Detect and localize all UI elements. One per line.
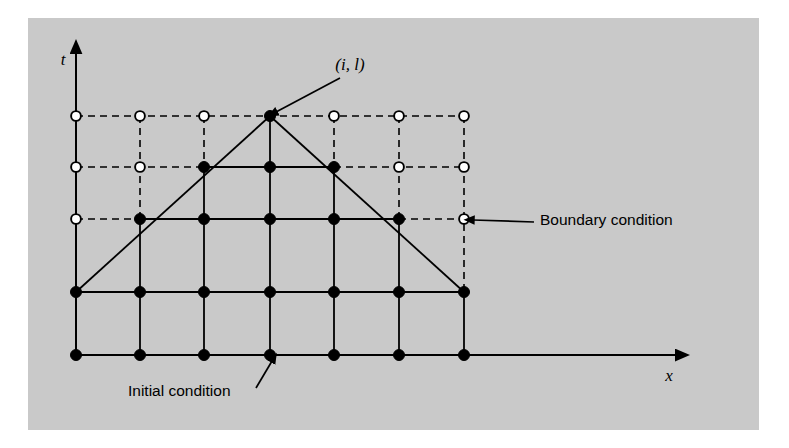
grid-node-filled [135, 287, 146, 298]
figure-root: t x (i, l) Boundary condition Initial co… [0, 0, 789, 448]
grid-node-open [135, 111, 145, 121]
finite-difference-grid-diagram: t x (i, l) Boundary condition Initial co… [0, 0, 789, 448]
grid-node-filled [459, 287, 470, 298]
grid-node-filled [265, 111, 276, 122]
grid-node-filled [329, 287, 340, 298]
grid-node-filled [135, 214, 146, 225]
grid-node-open [459, 162, 469, 172]
boundary-condition-label: Boundary condition [540, 211, 673, 228]
apex-callout-arrow [276, 78, 340, 112]
grid-node-open [459, 111, 469, 121]
grid-node-open [394, 111, 404, 121]
grid-node-filled [265, 162, 276, 173]
grid-node-filled [394, 350, 405, 361]
initial-condition-callout-arrow [256, 361, 272, 388]
grid-node-filled [265, 214, 276, 225]
grid-node-filled [199, 162, 210, 173]
grid-node-filled [329, 350, 340, 361]
right-characteristic [270, 116, 464, 292]
left-characteristic [76, 116, 270, 292]
grid-node-filled [265, 350, 276, 361]
grid-node-filled [265, 287, 276, 298]
grid-node-filled [394, 287, 405, 298]
grid-node-filled [199, 350, 210, 361]
grid-node-open [135, 162, 145, 172]
x-axis-label: x [664, 366, 673, 385]
grid-node-filled [199, 214, 210, 225]
grid-node-filled [71, 350, 82, 361]
grid-node-filled [199, 287, 210, 298]
grid-node-filled [135, 350, 146, 361]
grid-node-open [199, 111, 209, 121]
boundary-condition-callout-arrow [473, 220, 534, 222]
apex-point-label: (i, l) [335, 55, 365, 74]
grid-node-filled [329, 162, 340, 173]
grid-node-filled [71, 287, 82, 298]
grid-node-open [71, 162, 81, 172]
grid-node-filled [394, 214, 405, 225]
grid-node-open [394, 162, 404, 172]
grid-node-filled [329, 214, 340, 225]
grid-solid-lines [76, 116, 464, 355]
grid-node-open [71, 111, 81, 121]
grid-node-open [71, 214, 81, 224]
initial-condition-label: Initial condition [128, 382, 231, 399]
grid-node-open [459, 214, 469, 224]
t-axis-label: t [61, 50, 67, 69]
annotations: (i, l) Boundary condition Initial condit… [128, 55, 673, 399]
grid-node-filled [459, 350, 470, 361]
grid-node-open [329, 111, 339, 121]
